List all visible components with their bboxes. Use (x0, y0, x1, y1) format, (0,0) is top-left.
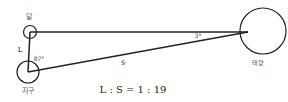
sun-angle-label: 3° (195, 32, 202, 39)
segment-s-label: S (121, 59, 125, 66)
earth-label: 지구 (22, 86, 35, 95)
segment-l-label: L (18, 46, 23, 54)
aristarchus-diagram: 달 L 87° S 3° 지구 태양 L : S = 1 : 19 (0, 0, 288, 102)
earth-sun-line (28, 32, 248, 72)
earth-angle-label: 87° (34, 55, 45, 62)
moon-label: 달 (26, 13, 33, 21)
sun-circle (240, 8, 286, 54)
sun-label: 태양 (252, 59, 264, 67)
ratio-label: L : S = 1 : 19 (100, 84, 167, 95)
